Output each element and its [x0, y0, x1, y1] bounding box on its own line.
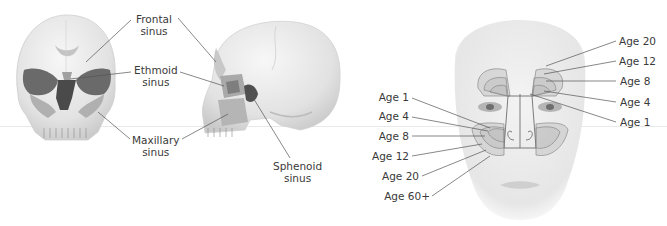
- label-maxillary-age-8: Age 8: [372, 130, 409, 142]
- label-frontal-age-12: Age 12: [619, 55, 656, 67]
- label-frontal-age-1: Age 1: [620, 116, 650, 128]
- label-text: Frontal: [136, 13, 172, 25]
- label-text: Maxillary: [132, 134, 179, 146]
- label-text: sinus: [273, 172, 322, 184]
- label-text: sinus: [134, 76, 178, 88]
- label-frontal-age-20: Age 20: [619, 35, 656, 47]
- label-maxillary-age-4: Age 4: [372, 110, 409, 122]
- label-text: Ethmoid: [134, 64, 178, 76]
- lateral-skull-illustration: [202, 21, 340, 137]
- label-maxillary-age-1: Age 1: [372, 91, 409, 103]
- label-text: Sphenoid: [273, 160, 322, 172]
- frontal-skull-illustration: [17, 15, 116, 140]
- face-illustration: [455, 20, 586, 220]
- label-maxillary-age-12: Age 12: [366, 150, 409, 162]
- label-maxillary-age-60plus: Age 60+: [378, 190, 430, 202]
- label-ethmoid-sinus: Ethmoid sinus: [134, 64, 178, 88]
- label-frontal-sinus: Frontal sinus: [136, 13, 172, 37]
- label-text: sinus: [136, 25, 172, 37]
- label-sphenoid-sinus: Sphenoid sinus: [273, 160, 322, 184]
- label-frontal-age-4: Age 4: [620, 96, 650, 108]
- label-text: sinus: [132, 146, 179, 158]
- label-maxillary-sinus: Maxillary sinus: [132, 134, 179, 158]
- label-maxillary-age-20: Age 20: [376, 170, 419, 182]
- label-frontal-age-8: Age 8: [620, 75, 650, 87]
- sinus-anatomy-diagram: Frontal sinus Ethmoid sinus Maxillary si…: [0, 0, 667, 226]
- illustrations: [0, 0, 667, 226]
